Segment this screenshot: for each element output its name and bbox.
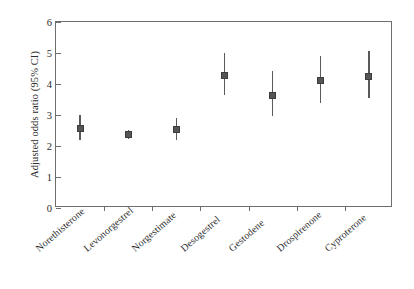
y-axis-tick: 1 [56, 177, 61, 178]
y-axis-tick-label: 4 [47, 78, 52, 92]
x-axis-category-label: Norethisterone [33, 205, 86, 253]
x-axis-tick [297, 206, 298, 211]
y-axis-tick: 4 [56, 84, 61, 85]
x-axis-tick [249, 206, 250, 211]
y-axis-tick: 3 [56, 115, 61, 116]
data-point-marker [317, 77, 324, 84]
y-axis-tick-label: 1 [47, 171, 52, 185]
data-point-marker [221, 72, 228, 79]
y-axis-tick-label: 0 [47, 202, 52, 216]
y-axis-title: Adjusted odds ratio (95% CI) [29, 20, 40, 210]
x-axis-tick [345, 206, 346, 211]
data-point-marker [125, 131, 132, 138]
x-axis-category-label: Gestodene [226, 217, 266, 254]
x-axis-category-label: Cyproterone [322, 212, 368, 254]
plot-area: 0123456 [55, 21, 392, 207]
x-axis-tick [152, 206, 153, 211]
y-axis-tick-label: 2 [47, 140, 52, 154]
data-point-marker [365, 73, 372, 80]
y-axis-tick: 6 [56, 22, 61, 23]
data-point-marker [173, 126, 180, 133]
data-point-marker [77, 125, 84, 132]
y-axis-tick: 0 [56, 208, 61, 209]
x-axis-category-label: Levonorgestrel [82, 205, 136, 254]
x-axis-tick [200, 206, 201, 211]
y-axis-tick-label: 6 [47, 16, 52, 30]
y-axis-tick: 2 [56, 146, 61, 147]
figure-container: Adjusted odds ratio (95% CI) 0123456 Nor… [0, 0, 414, 289]
x-axis-category-label: Norgestimate [130, 209, 179, 253]
data-point-marker [269, 92, 276, 99]
x-axis-tick [104, 206, 105, 211]
y-axis-tick-label: 5 [47, 47, 52, 61]
x-axis-category-label: Drospirenone [274, 209, 323, 254]
y-axis-tick-label: 3 [47, 109, 52, 123]
x-axis-category-label: Desogestrel [178, 214, 222, 254]
y-axis-tick: 5 [56, 53, 61, 54]
